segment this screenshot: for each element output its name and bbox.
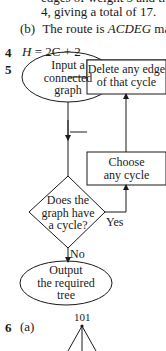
decision-line: Does the	[30, 194, 106, 207]
question-number-6: 6	[5, 320, 12, 336]
end-line: Output	[20, 264, 112, 277]
decision-label: Does the graph have a cycle?	[30, 194, 106, 232]
q6-part-a-label: (a)	[20, 320, 34, 334]
no-label: No	[70, 247, 85, 262]
end-line: tree	[20, 289, 112, 302]
delete-line: Delete any edge	[87, 63, 166, 76]
end-label: Output the required tree	[20, 264, 112, 302]
delete-line: of that cycle	[87, 76, 166, 89]
choose-line: Choose	[87, 156, 166, 169]
decision-line: a cycle?	[30, 219, 106, 232]
tree-root-label: 101	[74, 311, 91, 323]
delete-edge-label: Delete any edge of that cycle	[87, 63, 166, 88]
yes-label: Yes	[106, 215, 123, 230]
choose-cycle-label: Choose any cycle	[87, 156, 166, 181]
choose-line: any cycle	[87, 169, 166, 182]
